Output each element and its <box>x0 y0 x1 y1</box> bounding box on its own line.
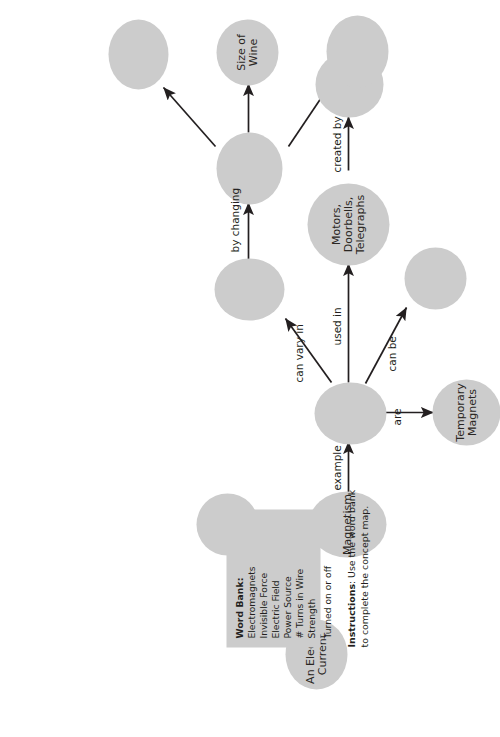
edge-label-by-changing: by changing <box>228 187 240 252</box>
node-temporary-magnets[interactable]: Temporary Magnets <box>432 379 500 445</box>
edge-label-example: example <box>330 445 342 490</box>
node-blank-lower[interactable] <box>326 15 388 87</box>
edge-label-created-by: created by <box>330 116 342 172</box>
edge-label-are: are <box>390 408 402 425</box>
instructions-separator: : <box>345 577 356 583</box>
node-label: Motors, Doorbells, Telegraphs <box>330 194 367 253</box>
word-bank-item: Turned on or off <box>321 518 333 638</box>
instructions-lead: Instructions <box>345 584 356 647</box>
node-motors-doorbells-telegraphs[interactable]: Motors, Doorbells, Telegraphs <box>307 183 389 265</box>
instructions-line-1: Instructions: Use the word bank <box>345 387 358 647</box>
instructions-text-1: Use the word bank <box>345 489 356 577</box>
word-bank-item: Electric Field <box>269 518 281 638</box>
instructions: Instructions: Use the word bank to compl… <box>345 387 371 647</box>
word-bank-item: # Turns in Wire <box>293 518 305 638</box>
word-bank: Word Bank: Electromagnets Invisible Forc… <box>226 509 320 647</box>
node-size-of-wire[interactable]: Size of Wine <box>216 19 278 85</box>
instructions-line-2: to complete the concept map. <box>358 387 371 647</box>
word-bank-item: Power Source <box>281 518 293 638</box>
node-label: Size of Wine <box>235 21 260 83</box>
word-bank-title: Word Bank: <box>233 518 244 638</box>
word-bank-item: Invisible Force <box>257 518 269 638</box>
node-label: Temporary Magnets <box>454 383 479 441</box>
word-bank-spacer <box>317 518 321 638</box>
node-blank-by-changing-source[interactable] <box>216 132 282 204</box>
word-bank-item: Electromagnets <box>245 518 257 638</box>
edge-label-used-in: used in <box>330 307 342 345</box>
node-blank-can-vary-in[interactable] <box>214 258 284 320</box>
edge-label-can-be: can be <box>385 336 397 371</box>
node-blank-upper[interactable] <box>108 19 168 89</box>
instructions-text-2: to complete the concept map. <box>358 505 369 647</box>
edge-to-upper-blank <box>163 87 215 146</box>
edge-label-can-vary-in: can vary in <box>292 324 304 382</box>
node-blank-can-be[interactable] <box>404 247 466 309</box>
word-bank-item: Strength <box>305 518 317 638</box>
